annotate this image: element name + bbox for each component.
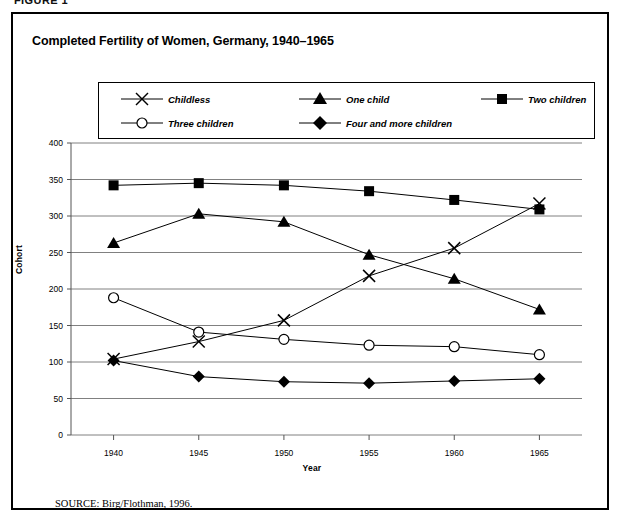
figure-label: FIGURE 1 (14, 0, 68, 8)
legend-row: Childless One child Two (99, 89, 594, 113)
figure-container: Completed Fertility of Women, Germany, 1… (11, 12, 609, 510)
legend-label: One child (343, 94, 389, 105)
legend-item-childless: Childless (119, 89, 210, 109)
source-note: SOURCE: Birg/Flothman, 1996. (55, 498, 193, 509)
square-marker-icon (479, 90, 525, 108)
legend-label: Two children (525, 94, 586, 105)
legend-label: Four and more children (343, 118, 452, 129)
x-marker-icon (119, 90, 165, 108)
circle-marker-icon (119, 114, 165, 132)
legend-item-one-child: One child (297, 89, 389, 109)
diamond-marker-icon (297, 114, 343, 132)
legend-item-four-and-more-children: Four and more children (297, 113, 452, 133)
chart-title: Completed Fertility of Women, Germany, 1… (32, 34, 334, 48)
chart-legend: Childless One child Two (98, 82, 595, 139)
legend-item-two-children: Two children (479, 89, 586, 109)
source-text: Birg/Flothman, 1996. (102, 498, 193, 509)
source-keyword: SOURCE: (55, 498, 99, 509)
legend-label: Three children (165, 118, 233, 129)
legend-label: Childless (165, 94, 210, 105)
legend-item-three-children: Three children (119, 113, 233, 133)
legend-row: Three children Four and more children (99, 113, 594, 137)
triangle-marker-icon (297, 90, 343, 108)
